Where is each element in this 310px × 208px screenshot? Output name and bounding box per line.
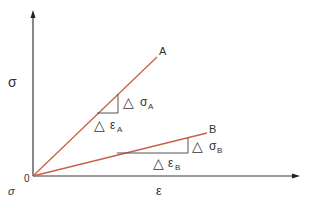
origin-label: 0 bbox=[24, 173, 30, 184]
delta-icon: △ bbox=[192, 138, 203, 154]
stress-strain-diagram: σ ε 0 σ A B △ σ A △ ε A △ σ B △ ε B bbox=[0, 0, 310, 208]
corner-label: σ bbox=[8, 185, 15, 197]
eps-b-subscript: B bbox=[175, 163, 180, 172]
sigma-b-label: σ bbox=[209, 139, 217, 153]
delta-icon: △ bbox=[123, 94, 134, 110]
sigma-b-subscript: B bbox=[217, 146, 222, 155]
delta-icon: △ bbox=[94, 117, 105, 133]
y-axis-label: σ bbox=[8, 74, 17, 90]
eps-a-label: ε bbox=[110, 118, 116, 132]
sigma-a-label: σ bbox=[140, 95, 148, 109]
delta-icon: △ bbox=[153, 155, 164, 171]
x-axis-arrow-icon bbox=[292, 174, 300, 179]
eps-b-label: ε bbox=[168, 156, 174, 170]
line-a-label: A bbox=[159, 45, 167, 57]
sigma-a-subscript: A bbox=[148, 102, 154, 111]
y-axis-arrow-icon bbox=[31, 10, 36, 18]
line-b bbox=[33, 133, 207, 176]
line-b-label: B bbox=[209, 123, 216, 135]
eps-a-subscript: A bbox=[117, 125, 123, 134]
x-axis-label: ε bbox=[156, 183, 162, 198]
